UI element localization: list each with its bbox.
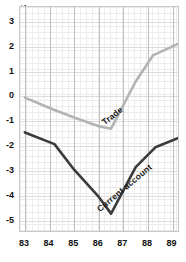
y-tick-1: 1 [0, 66, 14, 76]
chart-container: $bn 3210-1-2-3-4-5 83848586878889 TradeC… [0, 0, 186, 262]
y-tick-neg3: -3 [0, 165, 14, 175]
y-tick-neg5: -5 [0, 215, 14, 225]
x-tick-85: 85 [61, 238, 85, 248]
y-tick-neg1: -1 [0, 115, 14, 125]
y-tick-3: 3 [0, 16, 14, 26]
x-tick-88: 88 [135, 238, 159, 248]
y-tick-0: 0 [0, 90, 14, 100]
y-tick-2: 2 [0, 41, 14, 51]
x-tick-84: 84 [37, 238, 61, 248]
y-tick-neg4: -4 [0, 190, 14, 200]
x-tick-87: 87 [110, 238, 134, 248]
x-tick-83: 83 [12, 238, 36, 248]
x-tick-89: 89 [160, 238, 184, 248]
x-tick-86: 86 [86, 238, 110, 248]
y-tick-neg2: -2 [0, 140, 14, 150]
